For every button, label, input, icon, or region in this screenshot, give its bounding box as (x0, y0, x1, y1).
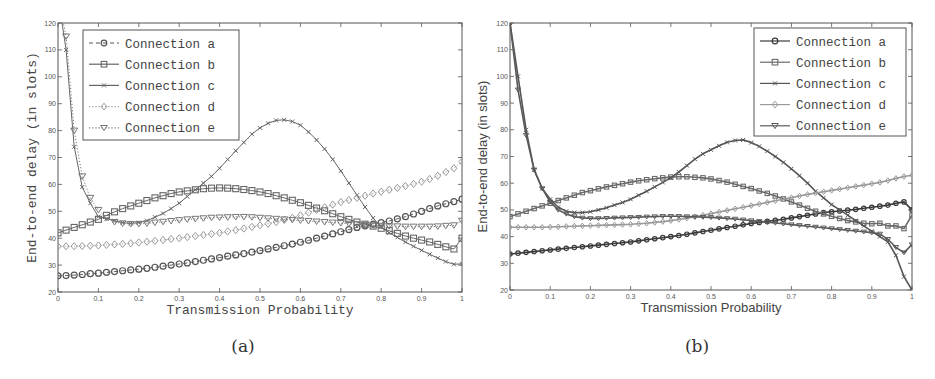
x-tick-label: 0 (508, 293, 512, 300)
legend-label: Connection e (125, 122, 215, 136)
legend-label: Connection b (796, 57, 886, 71)
x-tick-label: 0.8 (827, 293, 837, 300)
legend-label: Connection b (125, 59, 215, 73)
legend: Connection aConnection bConnection cConn… (83, 30, 239, 140)
x-tick-label: 0.5 (255, 295, 265, 302)
x-tick-label: 0.4 (215, 295, 225, 302)
y-tick-label: 70 (48, 154, 56, 161)
x-tick-label: 0.2 (134, 295, 144, 302)
legend-label: Connection a (796, 36, 887, 50)
y-tick-label: 90 (500, 100, 508, 107)
x-tick-label: 0.9 (417, 295, 427, 302)
x-tick-label: 0.2 (586, 293, 596, 300)
x-tick-label: 0.7 (787, 293, 797, 300)
legend-label: Connection e (796, 120, 886, 134)
y-tick-label: 100 (496, 73, 508, 80)
y-tick-label: 50 (48, 208, 56, 215)
y-tick-label: 120 (496, 20, 508, 27)
y-tick-label: 110 (45, 46, 56, 53)
y-tick-label: 100 (44, 73, 56, 80)
x-tick-label: 1 (910, 293, 914, 300)
x-tick-label: 0.1 (545, 293, 555, 300)
chart-panel-b: 00.10.20.30.40.50.60.70.80.9120304050607… (475, 20, 915, 357)
chart-panel-a: 00.10.20.30.40.50.60.70.80.9120304050607… (25, 0, 466, 356)
x-tick-label: 0.3 (626, 293, 636, 300)
x-tick-label: 0.6 (746, 293, 756, 300)
x-axis-title: Transmission Probability (166, 303, 353, 318)
y-tick-label: 80 (48, 127, 56, 134)
y-tick-label: 40 (48, 235, 56, 242)
y-tick-label: 40 (500, 233, 508, 240)
y-tick-label: 80 (500, 126, 508, 133)
y-tick-label: 110 (497, 46, 508, 53)
legend: Connection aConnection bConnection cConn… (754, 28, 906, 136)
y-tick-label: 60 (48, 181, 56, 188)
x-axis-title: Transmission Probability (640, 300, 782, 315)
y-tick-label: 50 (500, 206, 508, 213)
legend-label: Connection d (125, 101, 215, 115)
y-tick-label: 60 (500, 180, 508, 187)
x-tick-label: 1 (460, 295, 464, 302)
y-tick-label: 30 (48, 262, 56, 269)
figure: 00.10.20.30.40.50.60.70.80.9120304050607… (0, 0, 935, 379)
legend-label: Connection d (796, 99, 886, 113)
x-tick-label: 0.5 (706, 293, 716, 300)
panel-caption: (a) (231, 336, 254, 356)
y-tick-label: 20 (48, 289, 56, 296)
y-axis-title: End-to-end delay (in slots) (475, 81, 490, 233)
legend-label: Connection a (125, 38, 216, 52)
legend-label: Connection c (125, 80, 215, 94)
x-tick-label: 0.3 (174, 295, 184, 302)
legend-label: Connection c (796, 78, 886, 92)
y-tick-label: 90 (48, 100, 56, 107)
y-axis-title: End-to-end delay (in slots) (25, 52, 40, 263)
y-tick-label: 70 (500, 153, 508, 160)
x-tick-label: 0.4 (666, 293, 676, 300)
x-tick-label: 0.6 (296, 295, 306, 302)
x-tick-label: 0 (56, 295, 60, 302)
x-tick-label: 0.8 (376, 295, 386, 302)
panel-caption: (b) (685, 336, 709, 356)
y-tick-label: 120 (44, 20, 56, 27)
x-tick-label: 0.9 (867, 293, 877, 300)
x-tick-label: 0.1 (94, 295, 104, 302)
y-tick-label: 30 (500, 260, 508, 267)
y-tick-label: 20 (500, 287, 508, 294)
x-tick-label: 0.7 (336, 295, 346, 302)
